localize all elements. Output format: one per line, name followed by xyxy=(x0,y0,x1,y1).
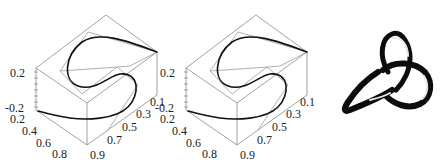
x-tick-label: 0.8 xyxy=(202,147,217,161)
box-top-face xyxy=(36,15,157,103)
y-tick-label: 0.9 xyxy=(90,148,105,162)
box-top-face xyxy=(186,15,307,103)
z-tick-label: 0.2 xyxy=(10,66,25,80)
y-tick-label: 0.9 xyxy=(240,148,255,162)
y-tick-label: 0.7 xyxy=(107,133,122,147)
z-tick-label: 0.2 xyxy=(160,66,175,80)
y-tick-label: 0.3 xyxy=(136,107,151,121)
y-tick-label: 0.1 xyxy=(300,95,315,109)
knot-left-sweep xyxy=(345,72,392,111)
x-tick-label: 0.4 xyxy=(22,124,37,138)
x-tick-label: 0.8 xyxy=(52,147,67,161)
y-tick-label: 0.5 xyxy=(122,120,137,134)
x-tick-label: 0.4 xyxy=(172,124,187,138)
y-tick-label: 0.5 xyxy=(272,120,287,134)
y-tick-label: 0.3 xyxy=(286,107,301,121)
y-tick-label: 0.7 xyxy=(257,133,272,147)
figure-canvas: 0.2 -0.2 0.2 0.4 0.6 0.8 0.9 0.7 0.5 0.3… xyxy=(0,0,448,166)
plot-3d-a: 0.2 -0.2 0.2 0.4 0.6 0.8 0.9 0.7 0.5 0.3… xyxy=(5,15,165,162)
x-tick-label: 0.6 xyxy=(36,136,51,150)
x-tick-label: 0.6 xyxy=(186,136,201,150)
trefoil-knot xyxy=(345,33,430,111)
plot-3d-b: 0.2 -0.2 0.2 0.4 0.6 0.8 0.9 0.7 0.5 0.3… xyxy=(155,15,315,162)
